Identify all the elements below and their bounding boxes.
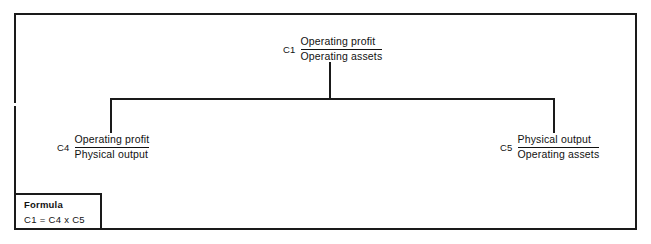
- node-c5-denominator: Operating assets: [518, 148, 600, 162]
- node-c5: C5 Physical output Operating assets: [500, 133, 599, 161]
- node-c1-code: C1: [283, 43, 296, 55]
- formula-title: Formula: [24, 199, 100, 211]
- node-c4-code: C4: [57, 141, 70, 153]
- node-c4-numerator: Operating profit: [75, 133, 150, 148]
- node-c5-fraction: Physical output Operating assets: [518, 133, 600, 161]
- formula-expression: C1 = C4 x C5: [24, 213, 100, 226]
- node-c1-denominator: Operating assets: [301, 50, 383, 64]
- node-c4-denominator: Physical output: [75, 148, 150, 162]
- node-c1-numerator: Operating profit: [301, 35, 383, 50]
- connector-drop-right: [553, 98, 555, 133]
- formula-box: Formula C1 = C4 x C5: [14, 193, 102, 230]
- connector-drop-left: [110, 98, 112, 133]
- node-c5-numerator: Physical output: [518, 133, 600, 148]
- node-c5-code: C5: [500, 141, 513, 153]
- connector-horizontal-bar: [110, 98, 555, 100]
- connector-root-stem: [329, 62, 331, 100]
- frame-scan-break: [13, 103, 18, 106]
- node-c4: C4 Operating profit Physical output: [57, 133, 149, 161]
- node-c1: C1 Operating profit Operating assets: [283, 35, 382, 63]
- diagram-page: C1 Operating profit Operating assets C4 …: [0, 0, 651, 244]
- node-c1-fraction: Operating profit Operating assets: [301, 35, 383, 63]
- node-c4-fraction: Operating profit Physical output: [75, 133, 150, 161]
